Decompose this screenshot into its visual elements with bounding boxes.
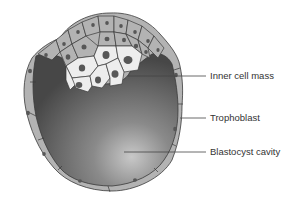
blastocyst-diagram: [0, 0, 297, 201]
label-trophoblast: Trophoblast: [210, 113, 260, 123]
label-inner-cell-mass: Inner cell mass: [210, 71, 274, 81]
label-blastocyst-cavity: Blastocyst cavity: [210, 147, 280, 157]
